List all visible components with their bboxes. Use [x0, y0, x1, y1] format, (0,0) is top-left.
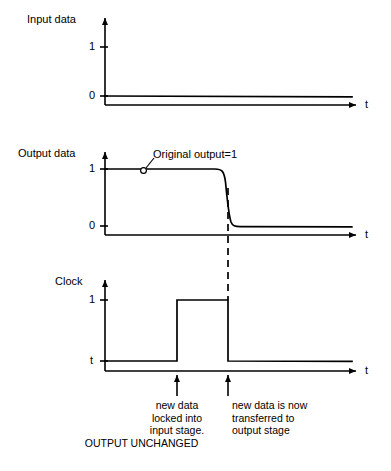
annotation-left-text: new data locked into input stage.: [127, 399, 227, 437]
output-data-axis-label: Output data: [18, 148, 76, 159]
chart-input-data: [100, 18, 356, 105]
input-waveform: [105, 96, 352, 97]
clock-tick-label-low: t: [90, 355, 93, 366]
input-tick-label-0: 0: [89, 90, 95, 101]
input-tick-label-1: 1: [89, 41, 95, 52]
annotation-left-emphasis: OUTPUT UNCHANGED: [56, 437, 227, 450]
timing-diagram-figure: Input data 1 0 t Output data 1 0 Origina…: [0, 0, 391, 471]
original-output-callout: Original output=1: [153, 149, 237, 160]
output-tick-label-0: 0: [89, 220, 95, 231]
output-tick-label-1: 1: [89, 163, 95, 174]
output-callout-marker: [141, 168, 147, 174]
input-data-axis-label: Input data: [27, 14, 76, 25]
clock-axis-label: Clock: [55, 276, 83, 287]
annotation-right-text: new data is now transferred to output st…: [232, 399, 342, 437]
clock-waveform: [105, 300, 352, 361]
input-time-axis-label: t: [365, 99, 368, 110]
output-time-axis-label: t: [365, 229, 368, 240]
clock-tick-label-1: 1: [89, 294, 95, 305]
clock-time-axis-label: t: [365, 365, 368, 376]
chart-clock: [100, 280, 356, 371]
